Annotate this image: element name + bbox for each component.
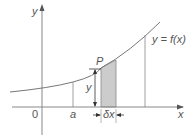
y-axis-label: y (31, 5, 39, 17)
point-p-label: P (96, 55, 104, 67)
origin-label: 0 (32, 108, 38, 120)
dx-right-arrow-icon (116, 113, 121, 117)
x-axis-label: x (177, 108, 184, 120)
strip-width-label: δx (103, 108, 115, 120)
height-arrow-top-icon (93, 69, 97, 74)
y-axis-arrow-icon (40, 4, 45, 11)
area-under-curve-diagram: y x 0 a P y δx y = f(x) (0, 0, 193, 140)
dx-left-arrow-icon (96, 113, 101, 117)
a-label: a (70, 108, 76, 120)
height-arrow-bottom-icon (93, 102, 97, 107)
strip-height-label: y (85, 81, 93, 93)
curve-label: y = f(x) (151, 33, 186, 45)
curve-f-of-x (10, 22, 160, 92)
